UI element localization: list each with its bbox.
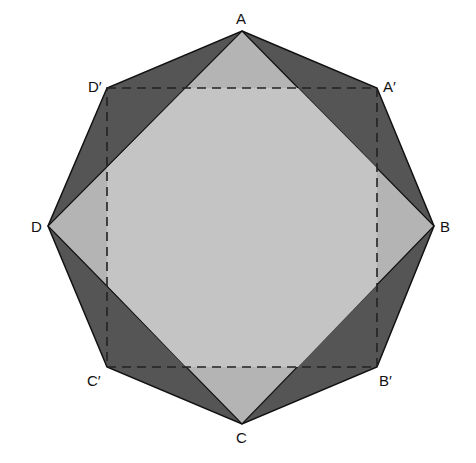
label-a: A [236,10,246,27]
octagon-diagram: A A′ B B′ C C′ D D′ [0,0,476,463]
overlap-region [107,88,377,367]
label-a-prime: A′ [383,78,396,95]
label-d-prime: D′ [88,78,102,95]
label-c-prime: C′ [87,372,101,389]
diagram-canvas: A A′ B B′ C C′ D D′ [0,0,476,463]
label-b-prime: B′ [379,372,392,389]
label-c: C [236,429,247,446]
label-b: B [440,218,450,235]
label-d: D [31,218,42,235]
